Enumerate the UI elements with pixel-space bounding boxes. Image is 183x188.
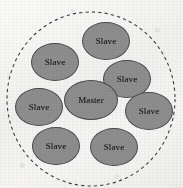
cluster-diagram-figure: Slave Slave Slave Slave Slave Slave Slav… [0,0,183,188]
node-label: Master [78,96,104,105]
nodes-layer: Slave Slave Slave Slave Slave Slave Slav… [0,0,183,188]
node-master[interactable]: Master [64,80,118,120]
node-slave-2[interactable]: Slave [31,43,79,81]
node-slave-1[interactable]: Slave [82,22,130,60]
node-slave-5[interactable]: Slave [125,92,173,130]
node-label: Slave [45,58,66,67]
node-label: Slave [29,103,50,112]
node-slave-6[interactable]: Slave [32,127,80,165]
node-slave-4[interactable]: Slave [15,88,63,126]
node-label: Slave [117,75,138,84]
node-label: Slave [96,37,117,46]
node-label: Slave [139,107,160,116]
node-label: Slave [104,143,125,152]
node-label: Slave [46,142,67,151]
node-slave-7[interactable]: Slave [90,128,138,166]
